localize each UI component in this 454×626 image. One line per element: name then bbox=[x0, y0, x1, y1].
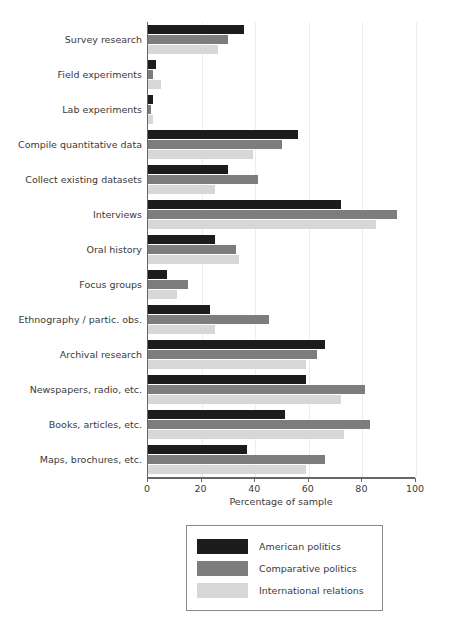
plot-area: Survey researchField experimentsLab expe… bbox=[147, 22, 416, 477]
legend-item: International relations bbox=[197, 579, 372, 601]
bar bbox=[148, 340, 325, 349]
bar-group: Focus groups bbox=[148, 270, 416, 299]
bar bbox=[148, 315, 269, 324]
x-tick-label: 20 bbox=[181, 483, 221, 494]
bar bbox=[148, 270, 167, 279]
x-tick-label: 60 bbox=[288, 483, 328, 494]
category-label: Collect existing datasets bbox=[0, 174, 142, 185]
bar-group: Compile quantitative data bbox=[148, 130, 416, 159]
bar bbox=[148, 395, 341, 404]
x-tick-label: 80 bbox=[341, 483, 381, 494]
bar bbox=[148, 410, 285, 419]
bar bbox=[148, 210, 397, 219]
bar bbox=[148, 60, 156, 69]
bar bbox=[148, 150, 253, 159]
category-label: Ethnography / partic. obs. bbox=[0, 314, 142, 325]
bar-group: Collect existing datasets bbox=[148, 165, 416, 194]
bar bbox=[148, 220, 376, 229]
category-label: Lab experiments bbox=[0, 104, 142, 115]
legend-swatch-international-relations bbox=[197, 583, 248, 598]
bar bbox=[148, 25, 244, 34]
category-label: Interviews bbox=[0, 209, 142, 220]
bar bbox=[148, 45, 218, 54]
legend-item: Comparative politics bbox=[197, 557, 372, 579]
bar bbox=[148, 165, 228, 174]
category-label: Maps, brochures, etc. bbox=[0, 454, 142, 465]
bar bbox=[148, 115, 153, 124]
x-axis bbox=[147, 477, 415, 479]
x-tick-mark bbox=[201, 478, 202, 482]
bar-group: Oral history bbox=[148, 235, 416, 264]
category-label: Field experiments bbox=[0, 69, 142, 80]
bar-group: Lab experiments bbox=[148, 95, 416, 124]
legend-label-comparative-politics: Comparative politics bbox=[259, 563, 357, 574]
gridline bbox=[416, 22, 417, 477]
bar bbox=[148, 185, 215, 194]
category-label: Oral history bbox=[0, 244, 142, 255]
category-label: Books, articles, etc. bbox=[0, 419, 142, 430]
legend-label-international-relations: International relations bbox=[259, 585, 364, 596]
bar-group: Survey research bbox=[148, 25, 416, 54]
category-label: Newspapers, radio, etc. bbox=[0, 384, 142, 395]
bar-group: Field experiments bbox=[148, 60, 416, 89]
category-label: Focus groups bbox=[0, 279, 142, 290]
x-tick-mark bbox=[361, 478, 362, 482]
x-tick-label: 100 bbox=[395, 483, 435, 494]
legend-swatch-american-politics bbox=[197, 539, 248, 554]
bar bbox=[148, 445, 247, 454]
x-tick-label: 0 bbox=[127, 483, 167, 494]
bar bbox=[148, 200, 341, 209]
bar bbox=[148, 325, 215, 334]
bar bbox=[148, 430, 344, 439]
bar bbox=[148, 140, 282, 149]
bar bbox=[148, 280, 188, 289]
bar bbox=[148, 455, 325, 464]
category-label: Compile quantitative data bbox=[0, 139, 142, 150]
x-tick-mark bbox=[254, 478, 255, 482]
legend-label-american-politics: American politics bbox=[259, 541, 341, 552]
legend: American politics Comparative politics I… bbox=[186, 525, 383, 611]
x-tick-mark bbox=[415, 478, 416, 482]
bar bbox=[148, 350, 317, 359]
bar bbox=[148, 105, 151, 114]
x-axis-label: Percentage of sample bbox=[147, 496, 415, 507]
bar bbox=[148, 385, 365, 394]
bar-group: Books, articles, etc. bbox=[148, 410, 416, 439]
x-tick-mark bbox=[308, 478, 309, 482]
bar-group: Ethnography / partic. obs. bbox=[148, 305, 416, 334]
bar bbox=[148, 80, 161, 89]
category-label: Archival research bbox=[0, 349, 142, 360]
bar bbox=[148, 235, 215, 244]
bar bbox=[148, 175, 258, 184]
bar bbox=[148, 130, 298, 139]
bar-group: Maps, brochures, etc. bbox=[148, 445, 416, 474]
bar bbox=[148, 375, 306, 384]
x-tick-label: 40 bbox=[234, 483, 274, 494]
bar-group: Archival research bbox=[148, 340, 416, 369]
bar-group: Interviews bbox=[148, 200, 416, 229]
bar bbox=[148, 245, 236, 254]
legend-item: American politics bbox=[197, 535, 372, 557]
legend-swatch-comparative-politics bbox=[197, 561, 248, 576]
bar bbox=[148, 35, 228, 44]
bar-group: Newspapers, radio, etc. bbox=[148, 375, 416, 404]
bar bbox=[148, 360, 306, 369]
bar bbox=[148, 95, 153, 104]
bar bbox=[148, 255, 239, 264]
category-label: Survey research bbox=[0, 34, 142, 45]
bar-series-container: Survey researchField experimentsLab expe… bbox=[148, 22, 416, 477]
bar bbox=[148, 465, 306, 474]
bar bbox=[148, 70, 153, 79]
bar-chart-figure: Survey researchField experimentsLab expe… bbox=[0, 0, 454, 626]
bar bbox=[148, 420, 370, 429]
bar bbox=[148, 305, 210, 314]
x-tick-mark bbox=[147, 478, 148, 482]
bar bbox=[148, 290, 177, 299]
